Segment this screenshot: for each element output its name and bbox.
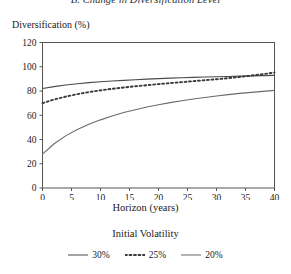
legend-label: 20%: [205, 250, 222, 260]
x-tick-label: 20: [154, 193, 164, 200]
x-tick-label: 0: [40, 193, 45, 200]
y-tick-label: 20: [27, 159, 37, 169]
legend-swatch-solid: [68, 251, 88, 259]
series-line-20pct: [43, 90, 275, 154]
x-tick-label: 35: [241, 193, 251, 200]
legend-title: Initial Volatility: [0, 228, 291, 239]
figure-panel: B. Change in Diversification Level Diver…: [0, 0, 291, 274]
axis-frame: [43, 43, 275, 189]
x-axis-label: Horizon (years): [0, 202, 291, 213]
x-axis-ticks: 0510152025303540: [40, 188, 279, 200]
legend-swatch-dotted: [125, 251, 145, 259]
x-tick-label: 10: [96, 193, 106, 200]
y-tick-label: 100: [22, 62, 37, 72]
legend: 30%25%20%: [0, 250, 291, 260]
y-tick-label: 60: [27, 111, 37, 121]
legend-label: 30%: [92, 250, 109, 260]
y-tick-label: 0: [32, 183, 37, 193]
x-tick-label: 40: [270, 193, 280, 200]
legend-entry-30pct[interactable]: 30%: [68, 250, 109, 260]
y-tick-label: 40: [27, 135, 37, 145]
y-axis-ticks: 020406080100120: [22, 38, 42, 194]
y-tick-label: 80: [27, 86, 37, 96]
series-line-25pct: [43, 73, 275, 104]
legend-label: 25%: [149, 250, 166, 260]
x-tick-label: 30: [212, 193, 222, 200]
x-tick-label: 25: [183, 193, 193, 200]
legend-entry-20pct[interactable]: 20%: [181, 250, 222, 260]
line-chart-plot: 020406080100120 0510152025303540: [0, 0, 291, 200]
y-tick-label: 120: [22, 38, 37, 48]
x-tick-label: 5: [69, 193, 74, 200]
legend-swatch-solid: [181, 251, 201, 259]
data-series-layer: [43, 73, 275, 154]
legend-entry-25pct[interactable]: 25%: [125, 250, 166, 260]
x-tick-label: 15: [125, 193, 135, 200]
